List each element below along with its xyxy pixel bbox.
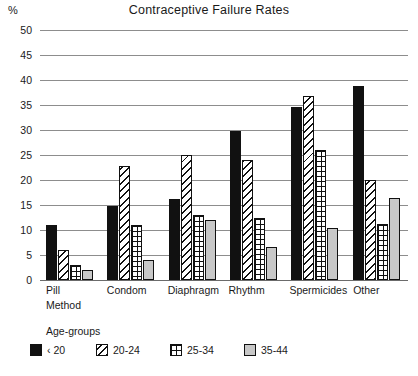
bar — [242, 160, 253, 280]
bar — [58, 250, 69, 280]
legend-item: 20-24 — [96, 342, 140, 358]
legend-swatch-icon — [170, 344, 182, 356]
legend-item: ‹ 20 — [30, 342, 65, 358]
bar — [266, 247, 277, 281]
x-axis-title: Method — [46, 299, 81, 311]
y-tick-label: 5 — [26, 249, 32, 261]
bar — [205, 220, 216, 280]
bar — [181, 155, 192, 280]
bar-group — [163, 30, 224, 280]
bar — [315, 150, 326, 280]
legend-label: 35-44 — [261, 344, 288, 356]
bar — [291, 107, 302, 281]
bar — [377, 224, 388, 280]
x-tick-label: Condom — [101, 284, 162, 300]
bar-group — [285, 30, 346, 280]
legend-label: 20-24 — [113, 344, 140, 356]
bar — [389, 198, 400, 281]
bar — [131, 225, 142, 280]
x-tick-label: Rhythm — [223, 284, 284, 300]
axis-baseline — [40, 280, 408, 281]
plot-area — [40, 30, 408, 280]
legend-swatch-icon — [30, 344, 42, 356]
bar — [327, 228, 338, 280]
legend: ‹ 2020-2425-3435-44 — [30, 342, 330, 360]
y-tick-label: 0 — [26, 274, 32, 286]
bar — [119, 166, 130, 280]
bar — [107, 206, 118, 280]
legend-label: ‹ 20 — [47, 344, 65, 356]
x-axis-tick-labels: PillCondomDiaphragmRhythmSpermicidesOthe… — [40, 284, 408, 300]
bar — [46, 225, 57, 280]
y-axis-tick-labels: 05101520253035404550 — [0, 30, 36, 280]
bar — [169, 199, 180, 281]
bar-group — [40, 30, 101, 280]
y-tick-label: 50 — [20, 24, 32, 36]
y-tick-label: 40 — [20, 74, 32, 86]
bar — [70, 265, 81, 280]
legend-item: 25-34 — [170, 342, 214, 358]
chart-title: Contraceptive Failure Rates — [0, 3, 418, 17]
y-tick-label: 30 — [20, 124, 32, 136]
bar — [254, 218, 265, 281]
bar — [143, 260, 154, 280]
legend-swatch-icon — [96, 344, 108, 356]
bar-group — [224, 30, 285, 280]
y-tick-label: 45 — [20, 49, 32, 61]
bar-group — [101, 30, 162, 280]
legend-label: 25-34 — [187, 344, 214, 356]
y-tick-label: 15 — [20, 199, 32, 211]
y-tick-label: 10 — [20, 224, 32, 236]
legend-item: 35-44 — [244, 342, 288, 358]
bar — [365, 180, 376, 280]
bar — [230, 131, 241, 280]
bar — [303, 96, 314, 280]
legend-title: Age-groups — [46, 325, 100, 337]
bar-groups — [40, 30, 408, 280]
y-tick-label: 25 — [20, 149, 32, 161]
x-tick-label: Diaphragm — [162, 284, 223, 300]
x-tick-label: Other — [347, 284, 408, 300]
bar — [193, 215, 204, 280]
y-tick-label: 35 — [20, 99, 32, 111]
bar — [353, 86, 364, 280]
legend-swatch-icon — [244, 344, 256, 356]
bar — [82, 270, 93, 280]
chart-container: % Contraceptive Failure Rates 0510152025… — [0, 0, 418, 376]
bar-group — [347, 30, 408, 280]
x-tick-label: Spermicides — [283, 284, 347, 300]
x-tick-label: Pill — [40, 284, 101, 300]
y-tick-label: 20 — [20, 174, 32, 186]
